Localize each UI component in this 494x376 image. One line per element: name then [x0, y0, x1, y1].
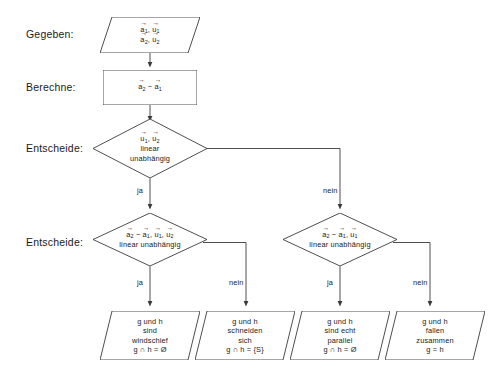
- result-node-1: g und hsindwindschiefg ∩ h = Ø: [100, 311, 200, 360]
- input-node-text: a1→, u1→a2→, u2→: [140, 25, 159, 45]
- flowchart-canvas: Gegeben: Berechne: Entscheide: Entscheid…: [0, 0, 494, 376]
- result-node-1-text: g und hsindwindschiefg ∩ h = Ø: [132, 317, 168, 354]
- edge-label-decision1-nein: nein: [323, 186, 338, 195]
- result-node-3-text: g und hsind echtparallelg ∩ h = Ø: [323, 317, 356, 354]
- decision-node-2: a2→ − a1→, u1→, u2→linear unabhängig: [93, 213, 207, 266]
- edge-label-decision1-ja: ja: [137, 186, 143, 195]
- result-node-2: g und hschneidensichg ∩ h = {S}: [195, 311, 295, 360]
- result-node-4-text: g und hfallenzusammeng = h: [416, 317, 453, 354]
- process-node: a2→ − a1→: [103, 70, 197, 105]
- result-node-3: g und hsind echtparallelg ∩ h = Ø: [290, 311, 390, 360]
- row-label-gegeben: Gegeben:: [26, 28, 74, 40]
- edge-label-decision3-ja: ja: [327, 278, 333, 287]
- decision-node-3: a2→ − a1→, u1→linear unabhängig: [283, 213, 397, 266]
- row-label-berechne: Berechne:: [26, 81, 76, 93]
- row-label-entscheide-1: Entscheide:: [26, 142, 83, 154]
- process-node-text: a2→ − a1→: [138, 82, 162, 92]
- edge-label-decision2-ja: ja: [137, 278, 143, 287]
- input-node: a1→, u1→a2→, u2→: [100, 17, 200, 53]
- decision-node-2-text: a2→ − a1→, u1→, u2→linear unabhängig: [119, 230, 180, 249]
- edge-label-decision2-nein: nein: [229, 278, 244, 287]
- result-node-4: g und hfallenzusammeng = h: [385, 311, 485, 360]
- decision-node-1-text: u1→, u2→linearunabhängig: [130, 134, 170, 163]
- decision-node-3-text: a2→ − a1→, u1→linear unabhängig: [309, 230, 370, 249]
- edge-label-decision3-nein: nein: [413, 278, 428, 287]
- row-label-entscheide-2: Entscheide:: [26, 236, 83, 248]
- decision-node-1: u1→, u2→linearunabhängig: [93, 119, 207, 178]
- result-node-2-text: g und hschneidensichg ∩ h = {S}: [226, 317, 264, 354]
